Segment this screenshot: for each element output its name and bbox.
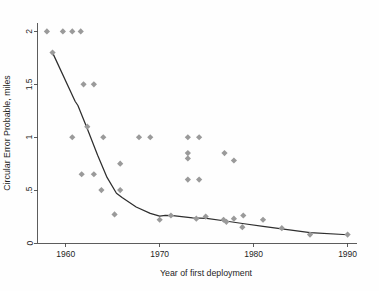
x-tick-label: 1960 [56,249,75,259]
x-tick-label: 1970 [150,249,169,259]
y-axis-title: Circular Error Probable, miles [2,75,12,191]
data-point-marker [69,134,75,140]
data-point-marker [117,161,123,167]
x-tick-label: 1980 [244,249,263,259]
trend-line [53,53,348,235]
y-tick-label: .5 [25,186,35,193]
data-point-marker [185,176,191,182]
data-point-marker [49,50,55,56]
data-point-marker [60,28,66,34]
chart-container: 19601970198019900.511.52 Year of first d… [0,0,379,291]
data-point-marker [185,150,191,156]
data-point-marker [80,81,86,87]
data-point-marker [157,217,163,223]
data-point-marker [231,216,237,222]
data-point-marker [100,134,106,140]
data-point-marker [345,231,351,237]
data-point-marker [221,150,227,156]
data-point-marker [185,155,191,161]
data-point-marker [239,224,245,230]
data-point-marker [147,134,153,140]
data-point-marker [231,157,237,163]
data-point-marker [44,28,50,34]
y-tick-label: 0 [25,240,35,245]
axis-ticks [34,31,348,247]
data-point-marker [91,81,97,87]
data-point-marker [260,217,266,223]
data-point-marker [78,28,84,34]
data-point-marker [98,187,104,193]
data-point-marker [117,187,123,193]
data-point-marker [111,211,117,217]
data-point-marker [196,134,202,140]
y-tick-label: 2 [25,29,35,34]
data-point-marker [168,212,174,218]
data-points [44,28,351,237]
data-point-marker [91,171,97,177]
data-point-marker [196,176,202,182]
data-point-marker [279,225,285,231]
x-tick-label: 1990 [338,249,357,259]
y-tick-label: 1 [25,135,35,140]
trend-line-path [53,53,348,235]
data-point-marker [69,28,75,34]
data-point-marker [193,216,199,222]
axis-spine [38,23,358,243]
axes [38,23,358,243]
data-point-marker [240,212,246,218]
x-axis-title: Year of first deployment [160,268,253,278]
data-point-marker [79,171,85,177]
axis-tick-labels: 19601970198019900.511.52 [25,29,358,259]
data-point-marker [136,134,142,140]
scatter-plot: 19601970198019900.511.52 Year of first d… [0,0,379,291]
data-point-marker [185,134,191,140]
y-tick-label: 1.5 [25,78,35,90]
